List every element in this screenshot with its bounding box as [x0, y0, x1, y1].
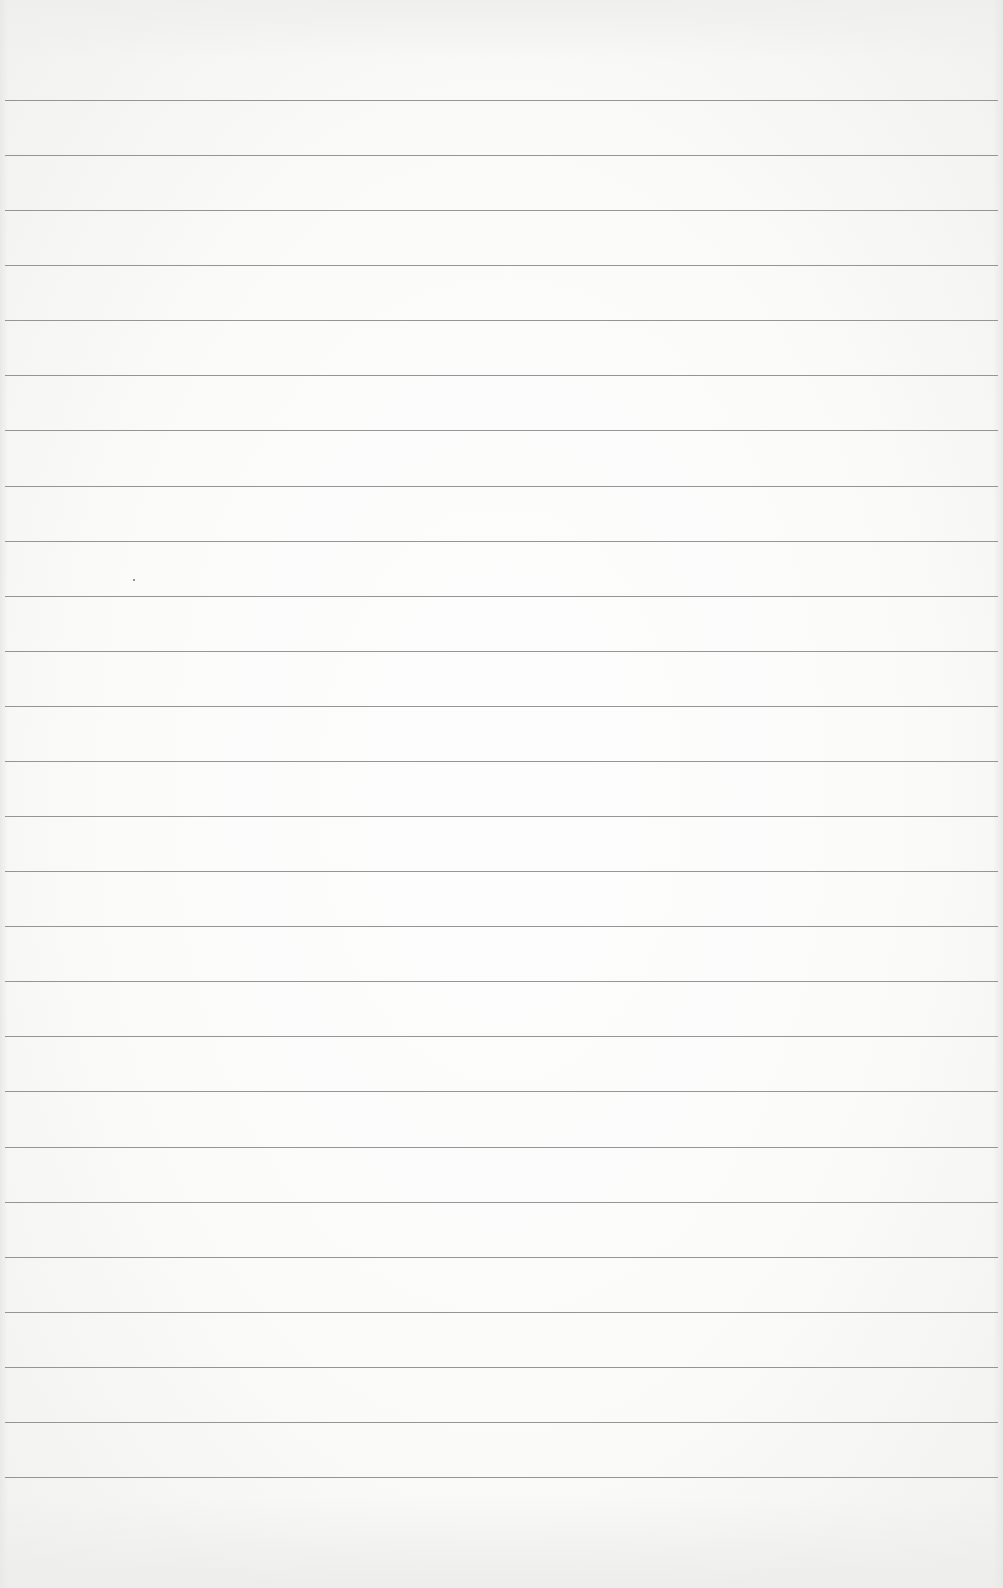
- ruled-line: [5, 1477, 998, 1479]
- ruled-line: [5, 706, 998, 708]
- ruled-line: [5, 651, 998, 653]
- ruled-line: [5, 100, 998, 102]
- paper-shadow-bottom: [0, 1498, 1003, 1588]
- ruled-line: [5, 1147, 998, 1149]
- ruled-line: [5, 596, 998, 598]
- ruled-line: [5, 1036, 998, 1038]
- ruled-line: [5, 541, 998, 543]
- ruled-line: [5, 1367, 998, 1369]
- ruled-line: [5, 265, 998, 267]
- ruled-line: [5, 871, 998, 873]
- ruled-line: [5, 1422, 998, 1424]
- ruled-line: [5, 1091, 998, 1093]
- ruled-line: [5, 1257, 998, 1259]
- ruled-line: [5, 981, 998, 983]
- ruled-line: [5, 320, 998, 322]
- ruled-line: [5, 926, 998, 928]
- ruled-line: [5, 375, 998, 377]
- paper-shadow-right: [993, 0, 1003, 1588]
- ruled-line: [5, 1312, 998, 1314]
- ruled-line: [5, 210, 998, 212]
- ruled-line: [5, 486, 998, 488]
- paper-speck: [133, 579, 135, 581]
- ruled-line: [5, 816, 998, 818]
- lined-paper-page: [0, 0, 1003, 1588]
- ruled-line: [5, 430, 998, 432]
- paper-shadow-top: [0, 0, 1003, 60]
- ruled-line: [5, 155, 998, 157]
- paper-shadow-left: [0, 0, 8, 1588]
- ruled-line: [5, 1202, 998, 1204]
- ruled-line: [5, 761, 998, 763]
